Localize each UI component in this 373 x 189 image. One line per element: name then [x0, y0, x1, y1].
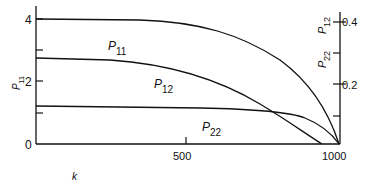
svg-text:12: 12: [162, 84, 174, 95]
svg-text:P: P: [202, 120, 210, 134]
svg-text:12: 12: [322, 17, 332, 27]
label-p11: P 11: [108, 39, 127, 57]
svg-text:P: P: [154, 77, 162, 91]
xlabel: k: [72, 171, 78, 182]
ylabel-right-p22: P 22: [316, 51, 332, 68]
curve-p12: [36, 58, 322, 144]
svg-text:P: P: [108, 39, 116, 53]
svg-text:22: 22: [322, 51, 332, 61]
svg-text:22: 22: [210, 127, 222, 138]
rtick-0.2: 0.2: [342, 79, 357, 91]
tick-0: 0: [25, 138, 32, 152]
label-p12: P 12: [154, 77, 174, 95]
tick-4: 4: [25, 13, 32, 27]
label-p22: P 22: [202, 120, 222, 138]
tick-1000: 1000: [322, 150, 346, 162]
rtick-0.4: 0.4: [342, 16, 357, 28]
svg-text:11: 11: [116, 46, 127, 57]
tick-2: 2: [25, 75, 32, 89]
ylabel-right-p12: P 12: [316, 17, 332, 34]
svg-text:11: 11: [17, 75, 26, 84]
chart: 4 2 0 500 1000 0.4 0.2 P 11 k P 12 P 22 …: [0, 0, 373, 189]
ylabel-left: P 11: [11, 75, 26, 90]
tick-500: 500: [173, 150, 191, 162]
